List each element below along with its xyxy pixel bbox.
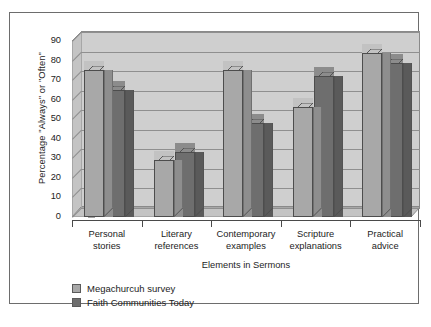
x-tick-mark <box>281 220 282 227</box>
legend-swatch <box>72 284 81 293</box>
chart-legend: Megachurcuh surveyFaith Communities Toda… <box>72 281 194 309</box>
bar-side-face <box>334 76 343 217</box>
bar <box>84 70 104 217</box>
bar-top-face <box>175 143 195 152</box>
bar-side-face <box>174 160 183 217</box>
legend-item: Megachurcuh survey <box>72 281 194 295</box>
plot-left-wall <box>72 31 82 217</box>
bar <box>362 53 382 217</box>
y-tick-label: 70 <box>35 75 61 84</box>
y-tick-label: 30 <box>35 154 61 163</box>
x-axis-line <box>72 220 420 221</box>
legend-item: Faith Communities Today <box>72 295 194 309</box>
bar-top-face <box>223 61 243 70</box>
y-tick-label: 50 <box>35 115 61 124</box>
y-tick-label: 0 <box>35 212 61 221</box>
bar-side-face <box>382 53 391 217</box>
legend-label: Faith Communities Today <box>87 297 194 308</box>
y-tick-label: 40 <box>35 134 61 143</box>
bar-side-face <box>313 107 322 217</box>
bar-top-face <box>84 61 104 70</box>
bar-side-face <box>195 152 204 217</box>
bar-top-face <box>293 98 313 107</box>
bar-side-face <box>403 63 412 217</box>
bar-front-face <box>362 53 382 217</box>
x-tick-mark <box>142 220 143 227</box>
y-tick-label: 10 <box>35 193 61 202</box>
bar-top-face <box>314 67 334 76</box>
y-tick-label: 80 <box>35 56 61 65</box>
bar-side-face <box>125 90 134 217</box>
bar <box>223 70 243 217</box>
bar-side-face <box>104 70 113 217</box>
bar-top-face <box>154 151 174 160</box>
x-tick-mark <box>211 220 212 227</box>
x-tick-mark <box>350 220 351 227</box>
bar-front-face <box>293 107 313 217</box>
legend-label: Megachurcuh survey <box>87 283 175 294</box>
y-tick-label: 90 <box>35 36 61 45</box>
x-tick-label: Practicaladvice <box>342 229 428 252</box>
x-tick-mark <box>72 220 73 227</box>
legend-swatch <box>72 298 81 307</box>
y-tick-label: 20 <box>35 173 61 182</box>
bar-front-face <box>154 160 174 217</box>
bar <box>293 107 313 217</box>
bar-side-face <box>264 123 273 217</box>
bar <box>154 160 174 217</box>
plot-area <box>72 31 420 216</box>
bar-front-face <box>84 70 104 217</box>
x-axis-title: Elements in Sermons <box>72 260 420 270</box>
bar-top-face <box>362 44 382 53</box>
x-tick-mark <box>420 220 421 227</box>
chart-frame: Percentage "Always" or "Often" 908070605… <box>9 12 419 304</box>
bar-side-face <box>243 70 252 217</box>
bar-front-face <box>223 70 243 217</box>
chart-figure: Percentage "Always" or "Often" 908070605… <box>0 0 431 327</box>
y-axis-ticks: 9080706050403020100 <box>35 31 61 216</box>
y-tick-label: 60 <box>35 95 61 104</box>
